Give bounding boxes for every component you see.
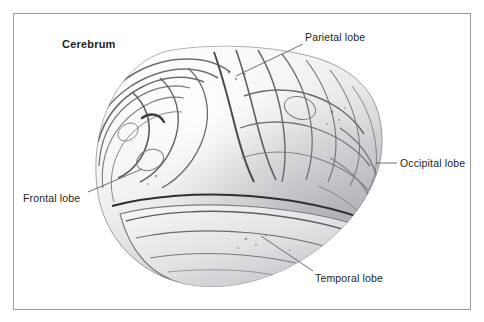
label-frontal-lobe: Frontal lobe xyxy=(23,193,80,204)
label-cerebrum: Cerebrum xyxy=(62,39,116,50)
brain-body xyxy=(90,40,390,300)
figure-container: Cerebrum Parietal lobe Occipital lobe Fr… xyxy=(0,0,484,322)
label-temporal-lobe: Temporal lobe xyxy=(315,273,383,284)
label-occipital-lobe: Occipital lobe xyxy=(400,158,465,169)
label-parietal-lobe: Parietal lobe xyxy=(305,32,365,43)
